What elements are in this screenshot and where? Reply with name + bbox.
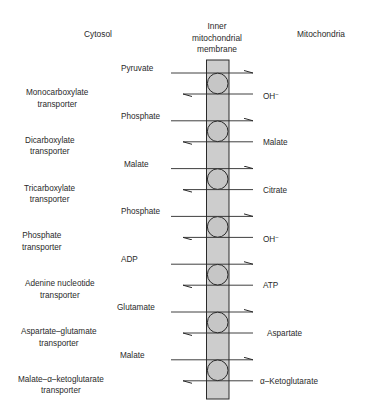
transporter-name-line: Aspartate–glutamate: [21, 326, 97, 338]
transporter-name: Dicarboxylatetransporter: [25, 135, 75, 158]
carrier-protein-icon: [207, 312, 228, 333]
carrier-protein-icon: [207, 121, 228, 142]
transporter-name: Adenine nucleotidetransporter: [25, 278, 95, 301]
inbound-substrate-label: Pyruvate: [121, 63, 153, 74]
outbound-substrate-label: OH−: [263, 89, 279, 102]
transporter-name-line: transporter: [26, 99, 88, 111]
transporter-name-line: Adenine nucleotide: [25, 278, 95, 290]
transporter-name-line: transporter: [25, 146, 75, 158]
transporter-name-line: Dicarboxylate: [25, 135, 75, 147]
transporter-name-line: transporter: [25, 290, 95, 302]
transporter-name-line: Malate–α–ketoglutarate: [18, 374, 104, 386]
transporter-name: Tricarboxylatetransporter: [24, 183, 75, 206]
carrier-protein-icon: [207, 217, 228, 238]
transporter-name: Phosphatetransporter: [22, 230, 62, 253]
outbound-substrate-label: α–Ketoglutarate: [260, 376, 318, 387]
transporter-name: Monocarboxylatetransporter: [26, 87, 88, 110]
transporter-name-line: transporter: [22, 242, 62, 254]
transporter-name: Aspartate–glutamatetransporter: [21, 326, 97, 349]
transporter-name-line: transporter: [21, 338, 97, 350]
transporter-name-line: transporter: [24, 194, 75, 206]
inbound-substrate-label: Glutamate: [117, 302, 155, 313]
outbound-substrate-label: Aspartate: [267, 328, 302, 339]
carrier-protein-icon: [207, 73, 228, 94]
outbound-substrate-label: Citrate: [263, 185, 287, 196]
transporter-name: Malate–α–ketoglutaratetransporter: [18, 374, 104, 397]
carrier-protein-icon: [207, 360, 228, 381]
inbound-substrate-label: Phosphate: [121, 111, 160, 122]
outbound-substrate-label: Malate: [263, 137, 288, 148]
carrier-protein-icon: [207, 169, 228, 190]
outbound-substrate-label: ATP: [263, 280, 278, 291]
inbound-substrate-label: Malate: [120, 350, 145, 361]
inbound-substrate-label: Malate: [124, 159, 149, 170]
transporter-name-line: Tricarboxylate: [24, 183, 75, 195]
transporter-name-line: Monocarboxylate: [26, 87, 88, 99]
membrane-diagram: [0, 0, 373, 418]
transporter-name-line: Phosphate: [22, 230, 62, 242]
inbound-substrate-label: ADP: [121, 254, 138, 265]
transporter-name-line: transporter: [18, 385, 104, 397]
inbound-substrate-label: Phosphate: [121, 206, 160, 217]
outbound-substrate-label: OH−: [263, 232, 279, 245]
carrier-protein-icon: [207, 264, 228, 285]
